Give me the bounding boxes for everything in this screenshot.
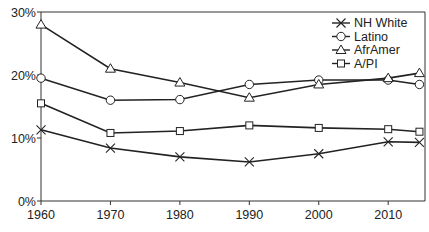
- data-point-a-pi: [38, 100, 45, 107]
- legend: NH WhiteLatinoAfrAmerA/PI: [332, 16, 408, 71]
- series-line-nh-white: [41, 130, 419, 162]
- legend-item-nh-white: NH White: [332, 16, 408, 30]
- y-tick-label: 20%: [11, 69, 36, 83]
- data-point-latino: [415, 80, 423, 88]
- data-point-latino: [245, 80, 253, 88]
- legend-label: Latino: [354, 30, 388, 44]
- y-tick-label: 30%: [11, 6, 36, 20]
- x-tick-label: 1960: [27, 208, 55, 222]
- legend-marker-aframer: [336, 45, 346, 54]
- series-line-a-pi: [41, 103, 419, 133]
- data-point-latino: [37, 74, 45, 82]
- legend-label: A/PI: [354, 57, 378, 71]
- legend-item-aframer: AfrAmer: [332, 43, 400, 57]
- data-point-aframer: [105, 64, 115, 72]
- series-latino: [37, 74, 424, 104]
- series-line-latino: [41, 78, 419, 100]
- line-chart: 0%10%20%30%196019701980199020002010 NH W…: [0, 0, 429, 232]
- data-point-aframer: [36, 20, 46, 29]
- data-point-latino: [106, 96, 114, 104]
- legend-label: AfrAmer: [354, 43, 400, 57]
- data-point-a-pi: [385, 126, 392, 133]
- y-tick-label: 0%: [18, 195, 36, 209]
- series-nh-white: [37, 125, 424, 166]
- data-point-aframer: [414, 68, 424, 77]
- data-point-a-pi: [315, 124, 322, 131]
- legend-item-a-pi: A/PI: [332, 57, 378, 71]
- x-tick-label: 2000: [305, 208, 333, 222]
- x-tick-label: 2010: [374, 208, 402, 222]
- data-point-a-pi: [176, 128, 183, 135]
- data-point-latino: [176, 95, 184, 103]
- x-tick-label: 1970: [97, 208, 125, 222]
- legend-label: NH White: [354, 16, 408, 30]
- y-tick-label: 10%: [11, 132, 36, 146]
- legend-marker-latino: [337, 32, 345, 40]
- series-a-pi: [38, 100, 423, 137]
- data-point-a-pi: [246, 122, 253, 129]
- legend-item-latino: Latino: [332, 30, 388, 44]
- x-tick-label: 1990: [235, 208, 263, 222]
- data-point-a-pi: [416, 128, 423, 135]
- legend-marker-a-pi: [338, 60, 345, 67]
- x-tick-label: 1980: [166, 208, 194, 222]
- data-point-a-pi: [107, 129, 114, 136]
